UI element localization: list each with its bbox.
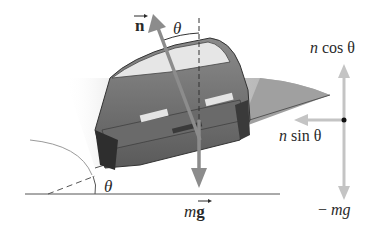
n-cos-n: n (310, 39, 318, 56)
weight-g: g (196, 202, 205, 221)
neg-mg-m: mg (331, 201, 351, 218)
neg-mg-arrowhead (338, 186, 350, 200)
slope-extension-dashed (48, 176, 95, 194)
theta-label-bottom: θ (104, 178, 112, 195)
neg-mg-label: − mg (318, 202, 351, 218)
banked-curve-diagram: n θ θ mg n cos θ n sin θ − mg (0, 0, 385, 231)
theta-label-top: θ (173, 20, 181, 37)
n-sin-theta-label: n sin θ (279, 128, 321, 144)
weight-m: m (184, 202, 196, 221)
normal-vector-label: n (135, 17, 144, 34)
car (95, 38, 250, 170)
neg-mg-minus: − (318, 201, 327, 218)
n-sin-arrowhead (294, 114, 308, 126)
theta-arc-top (164, 33, 199, 40)
n-cos-theta-label: n cos θ (310, 40, 355, 56)
diagram-canvas (0, 0, 385, 231)
n-sin-n: n (279, 127, 287, 144)
n-cos-rest: cos θ (322, 39, 355, 56)
theta-arc-bottom (93, 176, 96, 194)
origin-dot (342, 118, 347, 123)
weight-vector-label: mg (184, 203, 205, 220)
n-sin-rest: sin θ (291, 127, 321, 144)
n-cos-arrowhead (338, 64, 350, 78)
